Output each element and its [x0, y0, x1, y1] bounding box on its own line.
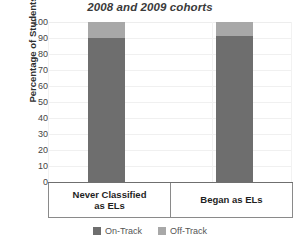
- bar-segment-off-track: [88, 22, 125, 38]
- gridline: [48, 134, 292, 135]
- legend-label-on-track: On-Track: [105, 226, 142, 236]
- plot-right-edge: [291, 22, 292, 182]
- legend-label-off-track: Off-Track: [170, 226, 207, 236]
- y-tick-label: 90: [24, 34, 48, 43]
- y-tick-label: 70: [24, 66, 48, 75]
- bar-segment-on-track: [216, 36, 253, 182]
- gridline: [48, 102, 292, 103]
- x-axis-label-never-classified: Never Classified as ELs: [48, 183, 171, 218]
- y-tick-label: 50: [24, 98, 48, 107]
- gridline: [48, 86, 292, 87]
- x-axis-category-labels: Never Classified as ELs Began as ELs: [48, 183, 293, 218]
- chart-legend: On-Track Off-Track: [0, 226, 300, 236]
- y-tick-label: 0: [24, 178, 48, 187]
- bar-never-classified-as-els: [88, 22, 125, 182]
- gridline: [48, 166, 292, 167]
- gridline: [48, 38, 292, 39]
- y-tick-label: 40: [24, 114, 48, 123]
- y-tick-label: 10: [24, 162, 48, 171]
- y-tick-label: 80: [24, 50, 48, 59]
- legend-item-off-track: Off-Track: [158, 226, 207, 236]
- x-axis-label-began-as-els: Began as ELs: [171, 183, 293, 218]
- legend-item-on-track: On-Track: [93, 226, 142, 236]
- gridline: [48, 22, 292, 23]
- y-tick-label: 60: [24, 82, 48, 91]
- chart-title: 2008 and 2009 cohorts: [0, 1, 300, 13]
- legend-swatch-on-track-icon: [93, 227, 101, 235]
- x-label-line1: Never Classified: [73, 189, 147, 200]
- gridline: [48, 70, 292, 71]
- bar-segment-off-track: [216, 22, 253, 36]
- x-label-line2: as ELs: [94, 200, 125, 211]
- x-label-line1: Began as ELs: [200, 194, 262, 205]
- gridline: [48, 118, 292, 119]
- gridline: [48, 54, 292, 55]
- bar-began-as-els: [216, 22, 253, 182]
- plot-area: [48, 22, 292, 182]
- gridline: [48, 150, 292, 151]
- y-tick-label: 20: [24, 146, 48, 155]
- y-tick-label: 100: [24, 18, 48, 27]
- legend-swatch-off-track-icon: [158, 227, 166, 235]
- y-tick-label: 30: [24, 130, 48, 139]
- bar-segment-on-track: [88, 38, 125, 182]
- plot-left-edge: [48, 22, 49, 182]
- plot-mid-divider: [212, 22, 213, 182]
- stacked-bar-chart: Percentage of students on-track, 2008 an…: [0, 0, 300, 244]
